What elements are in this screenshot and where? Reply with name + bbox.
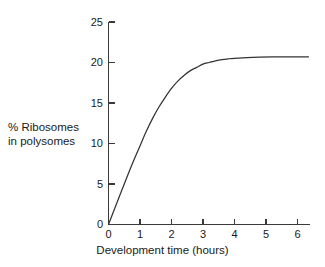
x-tick-label-4: 4 [231, 228, 237, 240]
y-tick-label-25: 25 [91, 16, 103, 28]
y-tick-label-0: 0 [97, 218, 103, 230]
figure-container: 0 5 10 15 20 25 0 1 2 3 4 5 6 % Ribosome… [0, 0, 325, 267]
x-tick-label-2: 2 [168, 228, 174, 240]
x-tick-label-6: 6 [294, 228, 300, 240]
y-axis-title: % Ribosomes in polysomes [8, 120, 96, 148]
y-axis-ticks [109, 22, 115, 225]
y-axis-title-line2: in polysomes [8, 134, 96, 148]
y-axis-title-line1: % Ribosomes [8, 120, 96, 134]
y-tick-label-20: 20 [91, 56, 103, 68]
x-tick-label-1: 1 [137, 228, 143, 240]
data-series-ribosomes [109, 57, 309, 225]
x-axis-title: Development time (hours) [0, 243, 325, 257]
x-axis-ticks [109, 219, 298, 225]
y-tick-label-5: 5 [97, 178, 103, 190]
x-tick-label-5: 5 [263, 228, 269, 240]
y-tick-label-15: 15 [91, 97, 103, 109]
x-tick-label-0: 0 [105, 228, 111, 240]
x-tick-label-3: 3 [200, 228, 206, 240]
